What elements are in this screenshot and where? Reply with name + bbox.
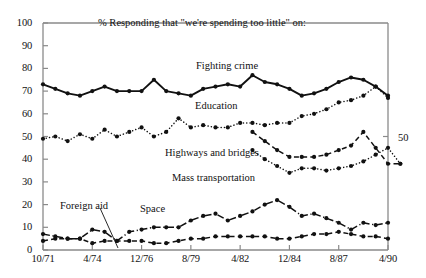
data-point <box>164 89 168 93</box>
data-point <box>275 148 279 152</box>
data-point <box>139 89 143 93</box>
chart-title: % Responding that "we're spending too li… <box>98 17 306 28</box>
data-point <box>226 82 230 86</box>
data-point <box>164 130 168 134</box>
data-point <box>263 80 267 84</box>
chart-plot-area <box>0 0 426 278</box>
data-point <box>374 234 378 238</box>
y-tick-70: 70 <box>6 85 32 96</box>
data-point <box>361 221 365 225</box>
data-point <box>127 89 131 93</box>
data-point <box>78 237 82 241</box>
data-point <box>361 94 365 98</box>
data-point <box>374 223 378 227</box>
data-point <box>312 232 316 236</box>
data-point <box>90 89 94 93</box>
data-point <box>337 221 341 225</box>
data-point <box>324 107 328 111</box>
series-label-mass-transportation: Mass transportation <box>172 172 255 183</box>
data-point <box>127 130 131 134</box>
data-point <box>312 91 316 95</box>
data-point <box>66 237 70 241</box>
data-point <box>300 166 304 170</box>
data-point <box>189 125 193 129</box>
data-point <box>250 234 254 238</box>
data-point <box>90 227 94 231</box>
y-tick-10: 10 <box>6 221 32 232</box>
data-point <box>103 239 107 243</box>
data-point <box>263 123 267 127</box>
data-point <box>300 114 304 118</box>
data-point <box>250 73 254 77</box>
data-point <box>263 157 267 161</box>
y-tick-100: 100 <box>6 17 32 28</box>
data-point <box>127 239 131 243</box>
data-point <box>238 214 242 218</box>
data-point <box>66 139 70 143</box>
data-point <box>78 132 82 136</box>
data-point <box>300 94 304 98</box>
data-point <box>226 125 230 129</box>
x-tick-12-76: 12/76 <box>119 253 165 264</box>
data-point <box>263 234 267 238</box>
series-line-highways-and-bridges <box>252 132 400 164</box>
data-point <box>287 205 291 209</box>
data-point <box>337 230 341 234</box>
x-tick-12-84: 12/84 <box>266 253 312 264</box>
x-tick-4-74: 4/74 <box>69 253 115 264</box>
data-point <box>213 234 217 238</box>
data-point <box>386 237 390 241</box>
data-point <box>361 78 365 82</box>
data-point <box>53 87 57 91</box>
data-point <box>139 239 143 243</box>
data-point <box>201 237 205 241</box>
y-tick-20: 20 <box>6 199 32 210</box>
series-label-education: Education <box>195 100 238 111</box>
data-point <box>386 146 390 150</box>
data-point <box>176 239 180 243</box>
data-point <box>250 121 254 125</box>
data-point <box>275 237 279 241</box>
data-point <box>349 98 353 102</box>
data-point <box>374 146 378 150</box>
data-point <box>287 237 291 241</box>
data-point <box>275 164 279 168</box>
data-point <box>152 78 156 82</box>
y-tick-80: 80 <box>6 62 32 73</box>
data-point <box>41 239 45 243</box>
y-tick-90: 90 <box>6 40 32 51</box>
data-point <box>312 166 316 170</box>
data-point <box>337 80 341 84</box>
y-tick-30: 30 <box>6 176 32 187</box>
data-point <box>287 171 291 175</box>
data-point <box>176 91 180 95</box>
data-point <box>41 232 45 236</box>
data-point <box>152 241 156 245</box>
data-point <box>349 143 353 147</box>
data-point <box>201 87 205 91</box>
data-point <box>189 94 193 98</box>
data-point <box>53 134 57 138</box>
x-tick-8-79: 8/79 <box>168 253 214 264</box>
series-line-education <box>43 87 388 141</box>
data-point <box>324 153 328 157</box>
x-tick-4-82: 4/82 <box>217 253 263 264</box>
y-tick-40: 40 <box>6 153 32 164</box>
x-tick-4-90: 4/90 <box>365 253 411 264</box>
data-point <box>213 212 217 216</box>
series-label-fighting-crime: Fighting crime <box>196 60 258 71</box>
series-label-highways-and-bridges: Highways and bridges <box>165 147 259 158</box>
data-point <box>374 153 378 157</box>
data-point <box>300 214 304 218</box>
data-point <box>90 137 94 141</box>
x-tick-10-71: 10/71 <box>20 253 66 264</box>
data-point <box>226 218 230 222</box>
y-tick-50: 50 <box>6 131 32 142</box>
data-point <box>275 121 279 125</box>
data-point <box>103 84 107 88</box>
series-label-space: Space <box>140 203 165 214</box>
series-label-foreign-aid: Foreign aid <box>60 200 108 211</box>
data-point <box>201 214 205 218</box>
data-point <box>90 241 94 245</box>
data-point <box>312 212 316 216</box>
